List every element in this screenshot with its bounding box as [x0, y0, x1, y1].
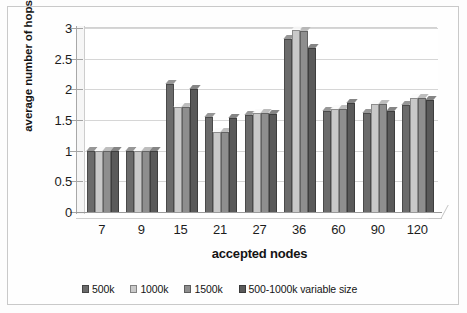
x-axis-tick-label: 15	[161, 222, 201, 237]
bar-face	[379, 104, 387, 212]
bar	[166, 84, 174, 212]
bar-face	[261, 113, 269, 212]
legend-item[interactable]: 500k	[82, 284, 114, 295]
bar-group	[205, 28, 237, 212]
x-axis-tick-labels: 79152127366090120	[82, 222, 437, 242]
bar-face	[103, 151, 111, 212]
bar-face	[387, 111, 395, 212]
bar-face	[308, 48, 316, 212]
legend-item-label: 1500k	[194, 284, 222, 295]
bar-face	[323, 111, 331, 212]
bar-top-cap	[165, 80, 176, 84]
bar-group	[126, 28, 158, 212]
legend-item-label: 1000k	[140, 284, 168, 295]
bar-face	[182, 107, 190, 212]
x-axis-tick-label: 120	[397, 222, 437, 237]
y-axis-title: average number of hops	[22, 0, 34, 142]
bar-face	[339, 109, 347, 212]
bar-face	[221, 132, 229, 212]
bar	[418, 98, 426, 212]
bar-face	[213, 132, 221, 212]
bar	[134, 151, 142, 212]
bar-face	[126, 151, 134, 212]
bar-face	[95, 151, 103, 212]
bar-top-cap	[299, 27, 310, 31]
legend-item-label: 500k	[92, 284, 114, 295]
bar	[174, 107, 182, 212]
bar-top-cap	[228, 114, 239, 118]
bar	[103, 151, 111, 212]
bar-top-cap	[110, 147, 121, 151]
bar	[363, 113, 371, 212]
bar-top-cap	[378, 100, 389, 104]
x-axis-tick-label: 90	[358, 222, 398, 237]
legend-item-label: 500-1000k variable size	[249, 284, 358, 295]
bar-face	[269, 114, 277, 212]
legend-swatch-icon	[239, 285, 246, 293]
bar-face	[300, 31, 308, 212]
bar-top-cap	[386, 107, 397, 111]
bar	[300, 31, 308, 212]
chart-legend: 500k1000k1500k500-1000k variable size	[82, 281, 412, 297]
bar-group	[284, 28, 316, 212]
bar	[402, 105, 410, 212]
bar-face	[331, 109, 339, 212]
bar-face	[418, 98, 426, 212]
bar	[292, 30, 300, 212]
x-axis-depth-line	[76, 218, 442, 219]
x-axis-tick-label: 36	[279, 222, 319, 237]
y-axis-tick-label: 1	[26, 143, 72, 158]
bar-group	[402, 28, 434, 212]
bar-face	[292, 30, 300, 212]
legend-item[interactable]: 1500k	[184, 284, 222, 295]
bar-face	[134, 151, 142, 212]
bar-top-cap	[189, 85, 200, 89]
bar-group	[166, 28, 198, 212]
bar	[213, 132, 221, 212]
bar	[95, 151, 103, 212]
bar-top-cap	[268, 110, 279, 114]
bar	[142, 151, 150, 212]
x-axis-tick-label: 9	[121, 222, 161, 237]
bar	[111, 151, 119, 212]
x-axis-tick-label: 60	[318, 222, 358, 237]
bar	[182, 107, 190, 212]
legend-item[interactable]: 500-1000k variable size	[239, 284, 358, 295]
x-axis-tick-label: 27	[240, 222, 280, 237]
bar-groups	[82, 28, 437, 212]
y-axis-tick-label: 0	[26, 205, 72, 220]
bar-face	[402, 105, 410, 212]
bar	[426, 100, 434, 212]
x-axis-tick-label: 7	[82, 222, 122, 237]
bar	[331, 109, 339, 212]
chart-figure: 00.511.522.53 79152127366090120 average …	[0, 0, 467, 313]
bar-top-cap	[347, 99, 358, 103]
bar	[229, 118, 237, 212]
bar	[371, 104, 379, 212]
bar	[126, 151, 134, 212]
x-axis-line	[76, 212, 442, 213]
bar	[261, 113, 269, 212]
legend-swatch-icon	[82, 285, 89, 293]
bar	[339, 109, 347, 212]
bar-face	[371, 104, 379, 212]
bar	[323, 111, 331, 212]
bar-top-cap	[204, 113, 215, 117]
bar-group	[323, 28, 355, 212]
bar	[387, 111, 395, 212]
bar-top-cap	[426, 96, 437, 100]
legend-swatch-icon	[184, 285, 191, 293]
bar	[284, 39, 292, 212]
bar-face	[284, 39, 292, 212]
bar	[347, 103, 355, 212]
bar-top-cap	[307, 44, 318, 48]
bar-face	[245, 115, 253, 212]
bar-face	[111, 151, 119, 212]
bar-face	[166, 84, 174, 212]
x-axis-tick-label: 21	[200, 222, 240, 237]
bar-face	[363, 113, 371, 212]
legend-item[interactable]: 1000k	[130, 284, 168, 295]
x-axis-title: accepted nodes	[82, 246, 437, 261]
bar	[221, 132, 229, 212]
bar	[245, 115, 253, 212]
